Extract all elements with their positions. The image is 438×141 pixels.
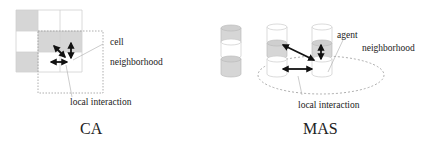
ca-cell-filled (16, 10, 38, 31)
mas-interaction-leader-line (298, 76, 302, 95)
ca-title: CA (80, 120, 103, 137)
mas-agent (221, 25, 241, 77)
mas-agent-label: agent (337, 30, 358, 40)
ca-mas-diagram: cell neighborhood local interaction CA (0, 0, 438, 141)
mas-title: MAS (303, 120, 338, 137)
ca-cell-filled (16, 52, 38, 72)
ca-neighborhood-label: neighborhood (110, 57, 163, 67)
mas-neighborhood-label: neighborhood (362, 43, 415, 53)
ca-local-interaction-label: local interaction (70, 97, 132, 107)
mas-local-interaction-label: local interaction (298, 100, 360, 110)
ca-panel: cell neighborhood local interaction CA (16, 10, 163, 137)
ca-interaction-leader-line (66, 65, 72, 97)
mas-panel: agent neighborhood local interaction MAS (221, 24, 415, 137)
double-arrow-icon (283, 45, 314, 60)
ca-cell-label: cell (110, 37, 124, 47)
mas-agent (312, 24, 332, 77)
